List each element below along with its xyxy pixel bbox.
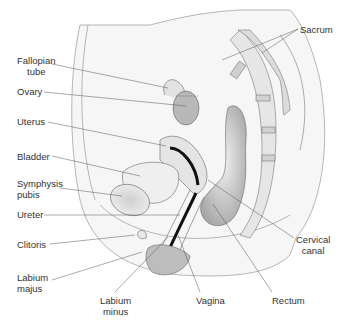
label-ureter: Ureter [17, 209, 43, 220]
label-labium-minus-line2: minus [100, 306, 131, 317]
label-cervical-canal-line1: Cervical [296, 234, 330, 245]
label-labium-minus: Labium minus [100, 295, 131, 317]
label-labium-majus: Labium majus [17, 272, 48, 294]
label-labium-minus-line1: Labium [100, 295, 131, 306]
label-symphysis-line1: Symphysis [17, 178, 63, 189]
label-symphysis-line2: pubis [17, 189, 63, 200]
body-silhouette [72, 10, 325, 276]
label-fallopian-tube-line1: Fallopian [17, 55, 56, 66]
clitoris [138, 230, 147, 238]
label-cervical-canal-line2: canal [296, 245, 330, 256]
label-cervical-canal: Cervical canal [296, 234, 330, 256]
label-fallopian-tube-line2: tube [17, 66, 56, 77]
label-symphysis-pubis: Symphysis pubis [17, 178, 63, 200]
label-sacrum: Sacrum [300, 24, 333, 35]
label-fallopian-tube: Fallopian tube [17, 55, 56, 77]
label-clitoris: Clitoris [17, 239, 46, 250]
label-bladder: Bladder [17, 151, 50, 162]
label-vagina: Vagina [196, 295, 225, 306]
label-labium-majus-line2: majus [17, 283, 48, 294]
label-uterus: Uterus [17, 116, 45, 127]
label-labium-majus-line1: Labium [17, 272, 48, 283]
label-ovary: Ovary [17, 86, 42, 97]
anatomy-illustration [0, 0, 347, 329]
label-rectum: Rectum [272, 295, 305, 306]
